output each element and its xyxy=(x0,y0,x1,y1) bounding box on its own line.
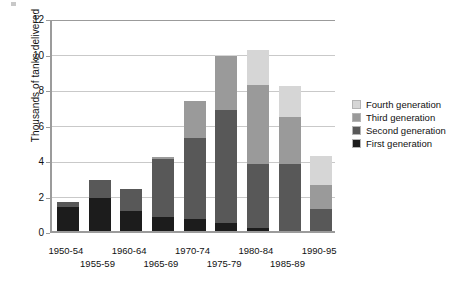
bar-1955-59 xyxy=(89,180,111,231)
x-tick-label-1970-74: 1970-74 xyxy=(175,245,210,256)
y-tick-label-10: 10 xyxy=(14,50,44,61)
bar-segment-1980-84-second-generation xyxy=(247,164,269,228)
bar-segment-1970-74-third-generation xyxy=(184,101,206,137)
legend-label: First generation xyxy=(366,138,432,149)
bar-segment-1975-79-third-generation xyxy=(215,56,237,110)
legend-item-second-generation[interactable]: Second generation xyxy=(352,124,450,136)
legend-swatch-icon xyxy=(352,126,361,135)
bar-group xyxy=(52,20,335,231)
bar-1990-95 xyxy=(310,156,332,231)
x-tick-label-1985-89: 1985-89 xyxy=(270,258,305,269)
x-tick-label-1965-69: 1965-69 xyxy=(143,258,178,269)
legend-swatch-icon xyxy=(352,113,361,122)
bar-1985-89 xyxy=(279,86,301,231)
bar-segment-1980-84-first-generation xyxy=(247,228,269,231)
legend-swatch-icon xyxy=(352,139,361,148)
x-tick-label-1980-84: 1980-84 xyxy=(238,245,273,256)
bar-1950-54 xyxy=(57,202,79,231)
bar-1970-74 xyxy=(184,101,206,231)
bar-segment-1950-54-first-generation xyxy=(57,207,79,231)
bar-segment-1970-74-first-generation xyxy=(184,219,206,231)
x-tick-label-1975-79: 1975-79 xyxy=(207,258,242,269)
x-tick-label-1960-64: 1960-64 xyxy=(112,245,147,256)
legend-swatch-icon xyxy=(352,100,361,109)
bar-segment-1965-69-first-generation xyxy=(152,217,174,231)
bar-segment-1975-79-first-generation xyxy=(215,223,237,231)
bar-segment-1960-64-second-generation xyxy=(120,189,142,211)
bar-1980-84 xyxy=(247,50,269,231)
bar-segment-1970-74-second-generation xyxy=(184,138,206,219)
bar-segment-1990-95-second-generation xyxy=(310,209,332,231)
x-tick-label-1955-59: 1955-59 xyxy=(80,258,115,269)
scan-artifact-speck xyxy=(11,2,16,6)
chart-figure: Thousands of tanks delivered 024681012 1… xyxy=(0,0,452,283)
y-tick-label-8: 8 xyxy=(14,85,44,96)
bar-segment-1985-89-second-generation xyxy=(279,164,301,231)
bar-segment-1990-95-third-generation xyxy=(310,185,332,209)
bar-segment-1975-79-second-generation xyxy=(215,110,237,223)
x-axis-label-group: 1950-541955-591960-641965-691970-741975-… xyxy=(0,233,452,283)
chart-legend: Fourth generationThird generationSecond … xyxy=(352,98,450,150)
legend-item-third-generation[interactable]: Third generation xyxy=(352,111,450,123)
legend-label: Second generation xyxy=(366,125,446,136)
legend-item-first-generation[interactable]: First generation xyxy=(352,137,450,149)
y-tick-label-4: 4 xyxy=(14,156,44,167)
bar-1975-79 xyxy=(215,55,237,231)
bar-segment-1960-64-first-generation xyxy=(120,211,142,231)
bar-segment-1965-69-second-generation xyxy=(152,159,174,217)
legend-label: Third generation xyxy=(366,112,435,123)
legend-item-fourth-generation[interactable]: Fourth generation xyxy=(352,98,450,110)
bar-segment-1955-59-first-generation xyxy=(89,198,111,231)
x-tick-label-1990-95: 1990-95 xyxy=(302,245,337,256)
plot-area xyxy=(50,20,335,233)
y-tick-label-2: 2 xyxy=(14,192,44,203)
bar-segment-1985-89-fourth-generation xyxy=(279,86,301,117)
bar-segment-1985-89-third-generation xyxy=(279,117,301,163)
bar-segment-1980-84-third-generation xyxy=(247,85,269,165)
bar-segment-1990-95-fourth-generation xyxy=(310,156,332,184)
legend-label: Fourth generation xyxy=(366,99,441,110)
y-tick-label-12: 12 xyxy=(14,14,44,25)
bar-segment-1955-59-second-generation xyxy=(89,180,111,199)
bar-segment-1980-84-fourth-generation xyxy=(247,50,269,85)
x-tick-label-1950-54: 1950-54 xyxy=(48,245,83,256)
bar-1960-64 xyxy=(120,189,142,231)
y-tick-label-6: 6 xyxy=(14,121,44,132)
bar-1965-69 xyxy=(152,157,174,231)
